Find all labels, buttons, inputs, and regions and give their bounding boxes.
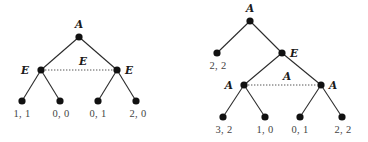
terminal-node	[219, 113, 226, 120]
edge-right-a-to-leaf-3	[300, 85, 321, 117]
edge-root-to-e	[250, 21, 282, 53]
right-e-player-label: E	[124, 64, 134, 76]
decision-node-right-e	[113, 66, 120, 73]
payoff-label: 2, 2	[335, 124, 352, 135]
payoff-label: 1, 0	[257, 124, 274, 135]
terminal-node-early	[213, 49, 220, 56]
decision-node-right-a	[317, 81, 324, 88]
decision-node-left-a	[240, 81, 247, 88]
edge-root-to-early-leaf	[217, 21, 250, 53]
payoff-label: 2, 0	[130, 108, 147, 119]
root-player-label: A	[245, 2, 254, 14]
e-player-label: E	[289, 47, 299, 59]
terminal-node	[132, 97, 139, 104]
terminal-node	[338, 113, 345, 120]
payoff-label: 0, 1	[90, 108, 107, 119]
root-node	[75, 33, 82, 40]
edge-left-e-to-leaf-2	[41, 70, 60, 101]
information-set-label: E	[78, 55, 88, 67]
terminal-node	[296, 113, 303, 120]
edge-right-e-to-leaf-3	[98, 70, 117, 101]
right-a-player-label: A	[328, 79, 337, 91]
information-set-label: A	[282, 70, 291, 82]
terminal-node	[261, 113, 268, 120]
early-payoff-label: 2, 2	[210, 60, 227, 71]
decision-node-left-e	[37, 66, 44, 73]
payoff-label: 0, 1	[292, 124, 309, 135]
payoff-label: 3, 2	[216, 124, 233, 135]
root-player-label: A	[74, 18, 83, 30]
right-tree: A E A A A 2, 2 3, 2 1, 0 0, 1 2, 2	[210, 2, 352, 135]
payoff-label: 1, 1	[14, 108, 31, 119]
root-node	[246, 17, 253, 24]
terminal-node	[56, 97, 63, 104]
edge-root-to-left-e	[41, 37, 79, 70]
left-e-player-label: E	[20, 64, 30, 76]
edge-left-a-to-leaf-2	[244, 85, 265, 117]
terminal-node	[18, 97, 25, 104]
decision-node-e	[278, 49, 285, 56]
terminal-node	[94, 97, 101, 104]
edge-e-to-left-a	[244, 53, 282, 85]
payoff-label: 0, 0	[53, 108, 70, 119]
game-trees-diagram: A E E E 1, 1 0, 0 0, 1 2, 0 A E	[0, 0, 368, 142]
left-a-player-label: A	[224, 79, 233, 91]
left-tree: A E E E 1, 1 0, 0 0, 1 2, 0	[14, 18, 147, 119]
